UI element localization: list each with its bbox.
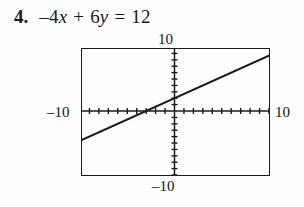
coordinate-plane-svg xyxy=(81,48,269,175)
worksheet-page: 4. –4x + 6y = 12 10 –10 –10 10 xyxy=(0,0,304,207)
graph-plot-area xyxy=(81,48,270,176)
axis-label-top: 10 xyxy=(158,32,173,47)
graph-figure: 10 –10 –10 10 xyxy=(0,0,304,207)
axis-label-left: –10 xyxy=(47,105,70,120)
axis-label-right: 10 xyxy=(275,105,290,120)
axis-label-bottom: –10 xyxy=(152,179,175,194)
